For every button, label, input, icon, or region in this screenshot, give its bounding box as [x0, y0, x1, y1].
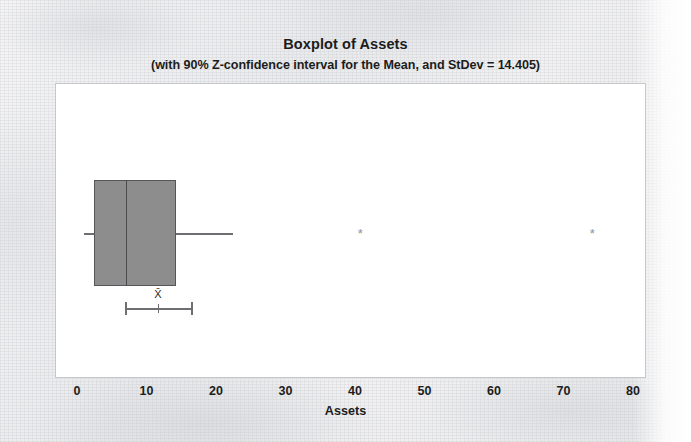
x-tick-label: 20	[196, 384, 236, 398]
box-iqr	[94, 180, 176, 286]
chart-title: Boxplot of Assets	[0, 36, 691, 53]
x-tick-label: 70	[544, 384, 584, 398]
whisker-high	[176, 233, 233, 235]
ci-mean-tick	[158, 304, 160, 313]
mean-symbol-label: X̄	[143, 288, 173, 300]
x-tick-label: 40	[335, 384, 375, 398]
median-line	[126, 180, 128, 286]
whisker-low	[84, 233, 94, 235]
outlier-marker: *	[354, 229, 366, 239]
plot-area: **X̄	[56, 84, 645, 377]
ci-end-lower	[125, 302, 127, 315]
title-block: Boxplot of Assets (with 90% Z-confidence…	[0, 36, 691, 73]
plot-frame: **X̄	[55, 83, 646, 378]
outlier-marker: *	[586, 229, 598, 239]
x-tick-label: 0	[57, 384, 97, 398]
x-tick-label: 60	[474, 384, 514, 398]
chart-subtitle: (with 90% Z-confidence interval for the …	[0, 57, 691, 73]
x-axis-title: Assets	[0, 404, 691, 418]
x-tick-label: 50	[405, 384, 445, 398]
x-tick-label: 30	[266, 384, 306, 398]
ci-end-upper	[191, 302, 193, 315]
x-tick-label: 10	[127, 384, 167, 398]
x-tick-label: 80	[613, 384, 653, 398]
scanned-page: Boxplot of Assets (with 90% Z-confidence…	[0, 0, 691, 442]
